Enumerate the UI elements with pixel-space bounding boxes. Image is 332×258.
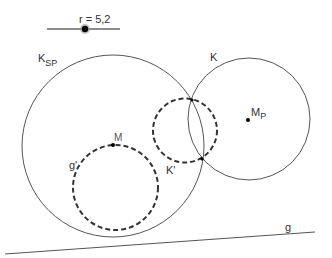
circle-k-prime[interactable]	[153, 99, 217, 163]
intersection-point-bottom	[200, 157, 203, 160]
geometry-canvas[interactable]: r = 5,2 KSP K K' g' M MP g	[0, 0, 332, 258]
intersection-point-top	[190, 98, 193, 101]
circle-ksp-label: KSP	[38, 52, 57, 68]
circle-g-prime-label: g'	[69, 159, 77, 171]
slider-label: r = 5,2	[79, 13, 111, 25]
point-m[interactable]	[111, 143, 115, 147]
point-mp[interactable]	[246, 118, 250, 122]
point-mp-label: MP	[251, 106, 266, 121]
slider-r[interactable]: r = 5,2	[47, 13, 120, 34]
point-m-label: M	[114, 132, 122, 143]
circle-g-prime[interactable]	[73, 145, 158, 230]
line-g[interactable]	[5, 232, 315, 254]
line-g-label: g	[285, 221, 291, 233]
slider-knob[interactable]	[82, 26, 88, 32]
circle-k-label: K	[210, 51, 218, 63]
circle-k-prime-label: K'	[166, 164, 175, 176]
